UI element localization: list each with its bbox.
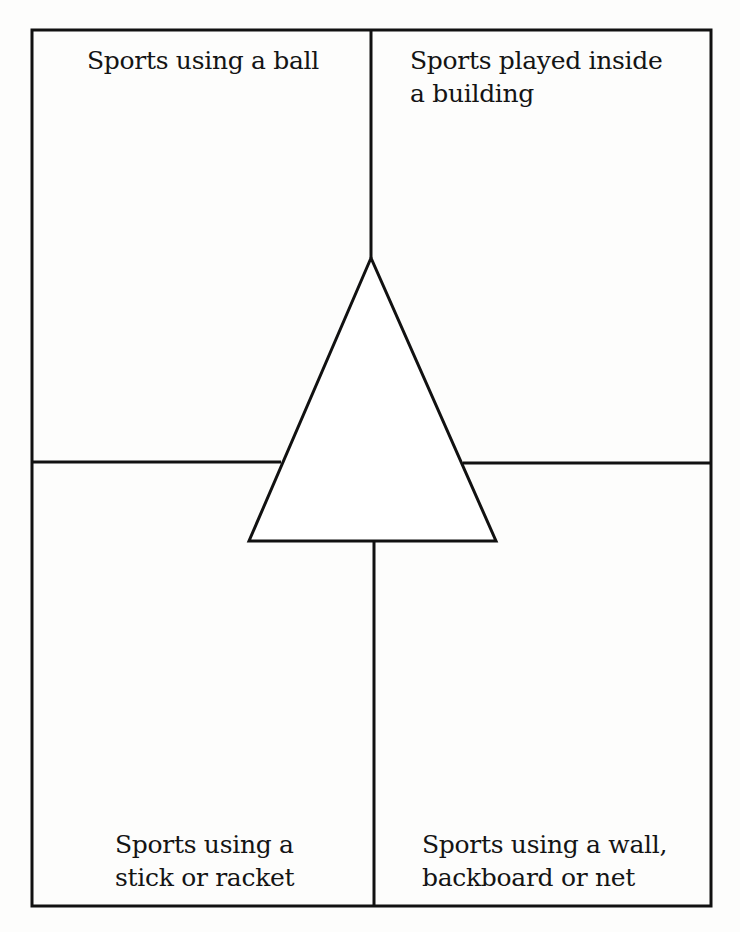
quadrant-label-top-left: Sports using a ball [87,44,357,77]
quadrant-label-bottom-left: Sports using a stick or racket [115,828,355,894]
quadrant-label-top-right: Sports played inside a building [410,44,700,110]
center-triangle [249,258,496,541]
quadrant-diagram [0,0,740,932]
quadrant-label-bottom-right: Sports using a wall, backboard or net [422,828,702,894]
worksheet-page: Sports using a ball Sports played inside… [0,0,740,932]
